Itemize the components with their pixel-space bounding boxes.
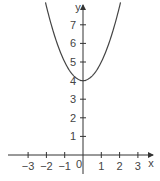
x-tick-label: 1 [98, 160, 104, 172]
y-tick-label: 7 [70, 19, 76, 31]
y-tick-label: 1 [70, 130, 76, 142]
y-tick-label: 5 [70, 56, 76, 68]
origin-label: 0 [76, 158, 82, 170]
y-axis-label: y [75, 1, 81, 13]
x-tick-label: 3 [135, 160, 141, 172]
x-tick-label: −1 [58, 160, 71, 172]
y-tick-label: 6 [70, 37, 76, 49]
y-tick-label: 3 [70, 93, 76, 105]
parabola-chart: −3−2−112301234567xy [0, 0, 160, 181]
x-axis-label: x [148, 157, 154, 169]
x-tick-label: −2 [40, 160, 53, 172]
x-tick-label: 2 [117, 160, 123, 172]
chart-canvas: −3−2−112301234567xy [0, 0, 160, 181]
tick-labels: −3−2−112301234567xy [22, 1, 154, 172]
axes [8, 5, 153, 174]
y-tick-label: 2 [70, 112, 76, 124]
x-tick-label: −3 [22, 160, 35, 172]
